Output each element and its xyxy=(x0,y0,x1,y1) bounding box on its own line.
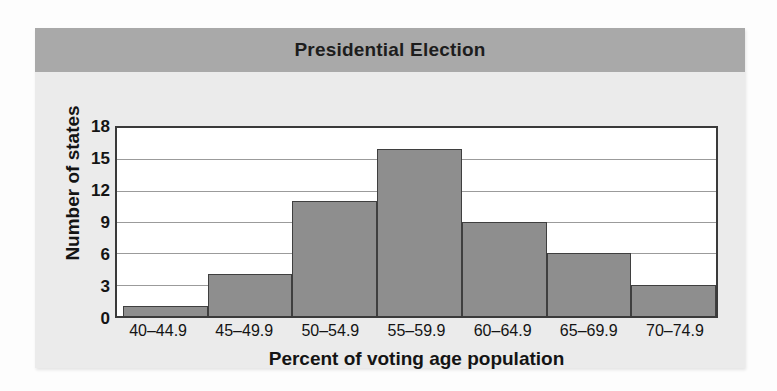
x-axis-tick-label: 65–69.9 xyxy=(546,322,632,340)
y-axis-tick-label: 0 xyxy=(101,310,110,327)
bar xyxy=(292,201,377,316)
x-axis-tick-label: 50–54.9 xyxy=(287,322,373,340)
bar xyxy=(462,222,547,316)
bar-series xyxy=(117,128,716,316)
chart-title: Presidential Election xyxy=(294,39,485,61)
x-axis-tick-label: 55–59.9 xyxy=(373,322,459,340)
x-axis-tick-label: 60–64.9 xyxy=(460,322,546,340)
x-axis-tick-label: 40–44.9 xyxy=(115,322,201,340)
x-axis-tick-label: 70–74.9 xyxy=(632,322,718,340)
y-axis-tick-label: 9 xyxy=(101,214,110,231)
chart-region: Number of states 0369121518 40–44.945–49… xyxy=(35,72,745,368)
x-axis-title: Percent of voting age population xyxy=(115,348,718,370)
y-axis-tick-label: 6 xyxy=(101,246,110,263)
bar xyxy=(377,149,462,316)
x-axis-tick-labels: 40–44.945–49.950–54.955–59.960–64.965–69… xyxy=(115,322,718,340)
figure-card: Presidential Election Number of states 0… xyxy=(35,28,745,368)
chart-title-banner: Presidential Election xyxy=(35,28,745,72)
x-axis-tick-label: 45–49.9 xyxy=(201,322,287,340)
y-axis-tick-label: 12 xyxy=(91,182,110,199)
y-axis-tick-labels: 0369121518 xyxy=(80,126,110,318)
y-axis-tick-label: 3 xyxy=(101,278,110,295)
bar xyxy=(123,306,208,316)
bar xyxy=(631,285,716,316)
page-background: Presidential Election Number of states 0… xyxy=(0,0,777,391)
bar xyxy=(547,253,632,316)
plot-area xyxy=(115,126,718,318)
y-axis-tick-label: 18 xyxy=(91,118,110,135)
y-axis-tick-label: 15 xyxy=(91,150,110,167)
bar xyxy=(208,274,293,316)
